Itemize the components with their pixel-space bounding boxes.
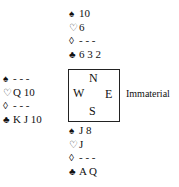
club-icon: ♣ <box>3 114 13 127</box>
north-hearts: ♡6 <box>69 21 101 35</box>
west-hearts: ♡Q 10 <box>3 86 42 100</box>
club-icon: ♣ <box>69 166 79 179</box>
north-hand: ♠10 ♡6 ◊- - - ♣6 3 2 <box>69 7 101 61</box>
spade-icon: ♠ <box>69 8 79 21</box>
diamond-icon: ◊ <box>69 35 79 48</box>
club-icon: ♣ <box>69 49 79 62</box>
spade-icon: ♠ <box>3 73 13 86</box>
south-diamonds: ◊- - - <box>69 151 97 165</box>
compass-south: S <box>89 104 96 119</box>
heart-icon: ♡ <box>69 22 79 35</box>
south-clubs: ♣A Q <box>69 165 97 179</box>
compass-east: E <box>105 87 112 102</box>
north-diamonds: ◊- - - <box>69 34 101 48</box>
north-clubs: ♣6 3 2 <box>69 48 101 62</box>
south-hearts: ♡J <box>69 138 97 152</box>
south-hand: ♠J 8 ♡J ◊- - - ♣A Q <box>69 124 97 178</box>
diamond-icon: ◊ <box>69 152 79 165</box>
spade-icon: ♠ <box>69 125 79 138</box>
compass-north: N <box>89 71 98 86</box>
compass-box: N W E S <box>68 69 120 122</box>
compass-west: W <box>73 86 84 101</box>
west-hand: ♠- - - ♡Q 10 ◊- - - ♣K J 10 <box>3 72 42 126</box>
diamond-icon: ◊ <box>3 100 13 113</box>
south-spades: ♠J 8 <box>69 124 97 138</box>
north-spades: ♠10 <box>69 7 101 21</box>
west-clubs: ♣K J 10 <box>3 113 42 127</box>
heart-icon: ♡ <box>3 87 13 100</box>
east-hand-label: Immaterial <box>126 88 170 99</box>
west-diamonds: ◊- - - <box>3 99 42 113</box>
west-spades: ♠- - - <box>3 72 42 86</box>
heart-icon: ♡ <box>69 139 79 152</box>
